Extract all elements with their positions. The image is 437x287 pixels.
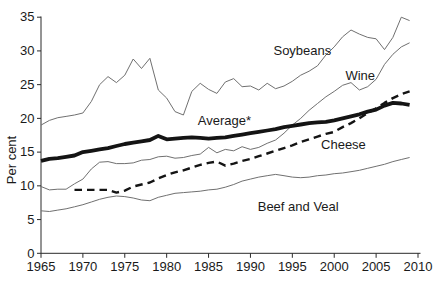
x-axis-tick-label: 2005: [362, 259, 391, 274]
series-label-soybeans: Soybeans: [273, 43, 331, 58]
y-axis-tick-label: 20: [20, 111, 34, 126]
x-axis-tick-label: 1995: [278, 259, 307, 274]
series-label-wine: Wine: [345, 68, 375, 83]
x-axis-tick-label: 2010: [404, 259, 433, 274]
y-axis-tick-label: 5: [27, 212, 34, 227]
x-axis-tick-label: 1980: [152, 259, 181, 274]
x-axis-tick-label: 1990: [236, 259, 265, 274]
commodity-export-share-chart: 0510152025303519651970197519801985199019…: [0, 0, 437, 287]
series-label-cheese: Cheese: [321, 137, 366, 152]
y-axis-title: Per cent: [4, 135, 19, 184]
x-axis-tick-label: 1965: [27, 259, 56, 274]
y-axis-tick-label: 10: [20, 178, 34, 193]
y-axis-tick-label: 15: [20, 144, 34, 159]
x-axis-tick-label: 1970: [68, 259, 97, 274]
x-axis-tick-label: 2000: [320, 259, 349, 274]
line-chart-canvas: 0510152025303519651970197519801985199019…: [0, 0, 437, 287]
series-label-beef-and-veal: Beef and Veal: [258, 199, 339, 214]
y-axis-tick-label: 30: [20, 43, 34, 58]
y-axis-tick-label: 35: [20, 9, 34, 24]
y-axis-tick-label: 25: [20, 77, 34, 92]
x-axis-tick-label: 1975: [110, 259, 139, 274]
x-axis-tick-label: 1985: [194, 259, 223, 274]
series-label-average: Average*: [198, 113, 251, 128]
